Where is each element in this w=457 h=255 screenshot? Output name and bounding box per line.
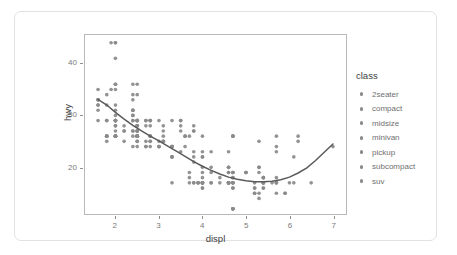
legend-dot-icon bbox=[356, 103, 367, 114]
legend-item: pickup bbox=[356, 145, 448, 160]
x-axis-tick-mark bbox=[246, 216, 247, 219]
y-axis-tick-mark bbox=[80, 63, 83, 64]
legend-item: compact bbox=[356, 102, 448, 117]
x-axis-tick-label: 6 bbox=[281, 221, 299, 230]
x-axis-tick-label: 4 bbox=[193, 221, 211, 230]
x-axis-tick-label: 7 bbox=[325, 221, 343, 230]
x-axis-tick-mark bbox=[334, 216, 335, 219]
legend-item: minivan bbox=[356, 131, 448, 146]
y-axis-tick-mark bbox=[80, 168, 83, 169]
legend-title: class bbox=[356, 70, 448, 81]
legend-items: 2seatercompactmidsizeminivanpickupsubcom… bbox=[356, 87, 448, 189]
legend-item-label: minivan bbox=[372, 133, 400, 142]
plot-panel bbox=[84, 34, 347, 215]
legend-item-label: pickup bbox=[372, 148, 395, 157]
y-axis-title: hwy bbox=[62, 93, 73, 133]
x-axis-tick-mark bbox=[290, 216, 291, 219]
x-axis-tick-label: 3 bbox=[150, 221, 168, 230]
legend-dot-icon bbox=[356, 89, 367, 100]
legend-dot-icon bbox=[356, 176, 367, 187]
plot-frame: 203040 234567 displ hwy class 2seatercom… bbox=[14, 11, 437, 241]
legend: class 2seatercompactmidsizeminivanpickup… bbox=[356, 70, 448, 189]
x-axis-tick-mark bbox=[202, 216, 203, 219]
legend-item-label: subcompact bbox=[372, 162, 415, 171]
legend-dot-icon bbox=[356, 132, 367, 143]
legend-item: suv bbox=[356, 174, 448, 189]
legend-item: subcompact bbox=[356, 160, 448, 175]
chart-card: 203040 234567 displ hwy class 2seatercom… bbox=[0, 0, 457, 255]
y-axis-tick-label: 20 bbox=[55, 163, 77, 172]
x-axis-tick-label: 5 bbox=[237, 221, 255, 230]
x-axis-tick-label: 2 bbox=[106, 221, 124, 230]
legend-dot-icon bbox=[356, 161, 367, 172]
y-axis-tick-mark bbox=[80, 115, 83, 116]
legend-dot-icon bbox=[356, 147, 367, 158]
x-axis-tick-mark bbox=[159, 216, 160, 219]
legend-item-label: midsize bbox=[372, 119, 399, 128]
legend-item: midsize bbox=[356, 116, 448, 131]
legend-item-label: compact bbox=[372, 104, 402, 113]
legend-item-label: 2seater bbox=[372, 90, 399, 99]
x-axis-tick-mark bbox=[115, 216, 116, 219]
y-axis-tick-label: 40 bbox=[55, 58, 77, 67]
scatter-canvas bbox=[85, 35, 346, 214]
legend-dot-icon bbox=[356, 118, 367, 129]
legend-item-label: suv bbox=[372, 177, 384, 186]
legend-item: 2seater bbox=[356, 87, 448, 102]
x-axis-title: displ bbox=[84, 233, 347, 244]
